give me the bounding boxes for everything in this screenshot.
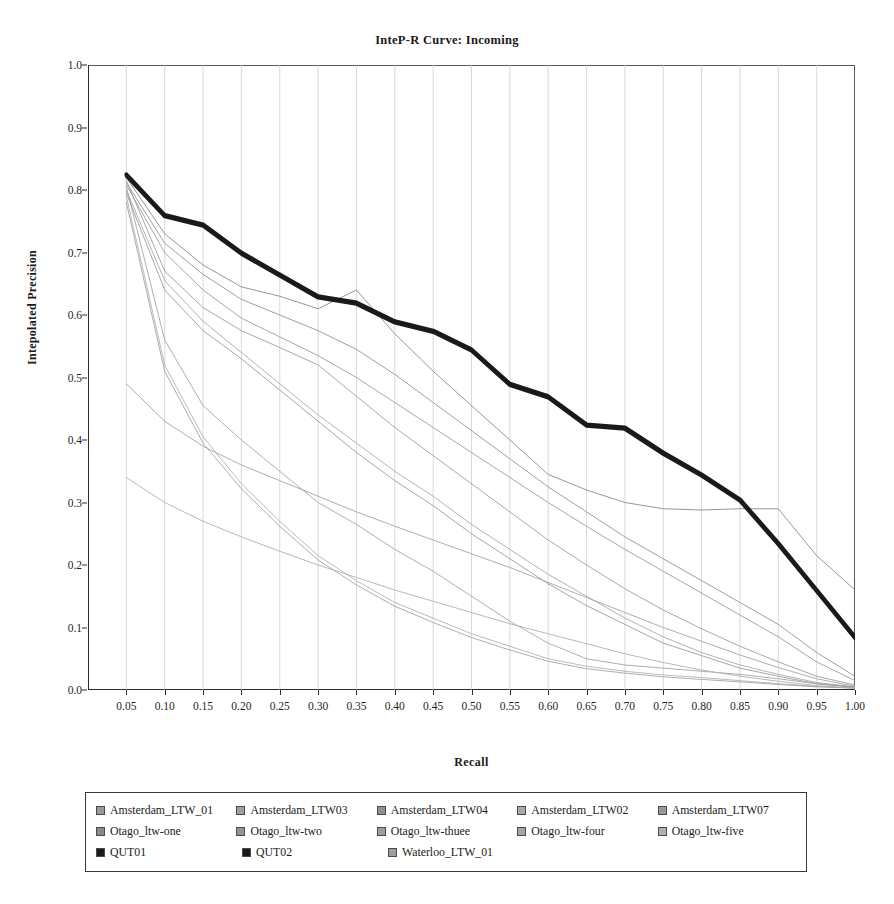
x-tick-label: 0.35 (346, 700, 366, 712)
legend-row: Otago_ltw-oneOtago_ltw-twoOtago_ltw-thue… (96, 821, 798, 842)
y-tick-label: 0.9 (42, 122, 82, 134)
x-tick-mark (548, 690, 549, 695)
legend-item[interactable]: Otago_ltw-five (658, 826, 798, 838)
y-axis-ticks: 0.00.10.20.30.40.50.60.70.80.91.0 (38, 65, 82, 690)
y-tick-label: 0.2 (42, 559, 82, 571)
x-tick-label: 1.00 (845, 700, 865, 712)
y-tick-mark (82, 502, 87, 503)
chart-legend: Amsterdam_LTW_01Amsterdam_LTW03Amsterdam… (85, 792, 807, 872)
legend-swatch-icon (388, 848, 397, 857)
y-tick-label: 0.8 (42, 184, 82, 196)
y-tick-label: 0.6 (42, 309, 82, 321)
legend-swatch-icon (377, 827, 386, 836)
legend-swatch-icon (96, 848, 105, 857)
legend-label: Waterloo_LTW_01 (402, 847, 493, 859)
x-tick-mark (433, 690, 434, 695)
x-tick-label: 0.25 (270, 700, 290, 712)
x-tick-label: 0.50 (461, 700, 481, 712)
legend-swatch-icon (96, 827, 105, 836)
x-tick-mark (663, 690, 664, 695)
x-tick-mark (587, 690, 588, 695)
x-tick-mark (395, 690, 396, 695)
x-tick-label: 0.05 (116, 700, 136, 712)
x-tick-mark (241, 690, 242, 695)
legend-item[interactable]: Otago_ltw-four (517, 826, 657, 838)
series-line (126, 174, 855, 637)
series-line (126, 187, 855, 687)
x-tick-mark (126, 690, 127, 695)
x-tick-mark (740, 690, 741, 695)
legend-label: Otago_ltw-five (672, 826, 744, 838)
legend-swatch-icon (658, 806, 667, 815)
y-tick-mark (82, 690, 87, 691)
legend-label: Otago_ltw-four (531, 826, 604, 838)
legend-label: Amsterdam_LTW04 (391, 805, 488, 817)
legend-swatch-icon (517, 806, 526, 815)
legend-label: Amsterdam_LTW02 (531, 805, 628, 817)
x-tick-mark (625, 690, 626, 695)
legend-label: Amsterdam_LTW03 (250, 805, 347, 817)
x-tick-label: 0.15 (193, 700, 213, 712)
y-tick-label: 0.7 (42, 247, 82, 259)
legend-row: Amsterdam_LTW_01Amsterdam_LTW03Amsterdam… (96, 800, 798, 821)
x-axis-ticks: 0.050.100.150.200.250.300.350.400.450.50… (88, 690, 855, 720)
legend-swatch-icon (242, 848, 251, 857)
legend-label: Amsterdam_LTW_01 (110, 805, 213, 817)
y-tick-mark (82, 627, 87, 628)
legend-label: QUT01 (110, 847, 146, 859)
plot-area (88, 65, 855, 690)
series-line (126, 196, 855, 688)
legend-item[interactable]: QUT02 (242, 847, 388, 859)
legend-item[interactable]: Otago_ltw-thuee (377, 826, 517, 838)
legend-swatch-icon (96, 806, 105, 815)
x-tick-mark (280, 690, 281, 695)
legend-swatch-icon (658, 827, 667, 836)
x-tick-label: 0.95 (807, 700, 827, 712)
y-tick-mark (82, 65, 87, 66)
series-line (126, 190, 855, 687)
y-tick-label: 0.1 (42, 622, 82, 634)
legend-label: Otago_ltw-one (110, 826, 181, 838)
series-line (126, 181, 855, 685)
legend-swatch-icon (517, 827, 526, 836)
series-line (126, 176, 855, 639)
legend-item[interactable]: Amsterdam_LTW03 (236, 805, 376, 817)
legend-item[interactable]: Amsterdam_LTW07 (658, 805, 798, 817)
legend-item[interactable]: Amsterdam_LTW04 (377, 805, 517, 817)
legend-label: Otago_ltw-thuee (391, 826, 470, 838)
x-tick-mark (165, 690, 166, 695)
x-tick-label: 0.80 (692, 700, 712, 712)
legend-row: QUT01QUT02Waterloo_LTW_01 (96, 842, 798, 863)
legend-swatch-icon (236, 806, 245, 815)
x-tick-label: 0.70 (615, 700, 635, 712)
legend-label: Amsterdam_LTW07 (672, 805, 769, 817)
legend-item[interactable]: QUT01 (96, 847, 242, 859)
y-tick-mark (82, 190, 87, 191)
x-tick-mark (318, 690, 319, 695)
plot-lines (88, 65, 855, 690)
legend-item[interactable]: Amsterdam_LTW_01 (96, 805, 236, 817)
x-tick-label: 0.40 (385, 700, 405, 712)
y-tick-label: 0.5 (42, 372, 82, 384)
x-tick-label: 0.90 (768, 700, 788, 712)
legend-item[interactable]: Amsterdam_LTW02 (517, 805, 657, 817)
x-tick-label: 0.20 (231, 700, 251, 712)
x-tick-mark (817, 690, 818, 695)
series-line (126, 193, 855, 687)
x-tick-mark (472, 690, 473, 695)
legend-item[interactable]: Waterloo_LTW_01 (388, 847, 534, 859)
x-tick-mark (702, 690, 703, 695)
x-tick-label: 0.30 (308, 700, 328, 712)
y-tick-mark (82, 127, 87, 128)
y-tick-label: 1.0 (42, 59, 82, 71)
y-tick-label: 0.3 (42, 497, 82, 509)
x-tick-label: 0.75 (653, 700, 673, 712)
legend-item[interactable]: Otago_ltw-one (96, 826, 236, 838)
legend-label: Otago_ltw-two (250, 826, 321, 838)
y-tick-mark (82, 440, 87, 441)
x-tick-mark (356, 690, 357, 695)
legend-item[interactable]: Otago_ltw-two (236, 826, 376, 838)
x-tick-mark (510, 690, 511, 695)
x-tick-label: 0.65 (576, 700, 596, 712)
legend-swatch-icon (236, 827, 245, 836)
